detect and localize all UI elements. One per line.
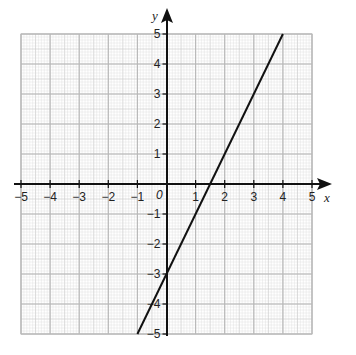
x-tick-label: 1 [192, 190, 199, 204]
x-tick-label: 2 [221, 190, 228, 204]
y-tick-label: 3 [154, 87, 161, 101]
y-axis-label: y [150, 8, 158, 23]
y-tick-label: 2 [154, 117, 161, 131]
x-axis-label: x [323, 190, 330, 205]
y-tick-label: −3 [147, 267, 161, 281]
x-tick-label: −3 [72, 190, 86, 204]
y-tick-label: 5 [154, 27, 161, 41]
y-tick-label: −5 [147, 327, 161, 341]
y-tick-label: 1 [154, 147, 161, 161]
y-tick-label: −1 [147, 207, 161, 221]
x-tick-label: −4 [43, 190, 57, 204]
x-tick-label: −1 [131, 190, 145, 204]
coordinate-graph: −5−4−3−2−11234554321−1−2−3−4−5 x y 0 [0, 0, 356, 355]
x-tick-label: 3 [250, 190, 257, 204]
x-tick-label: −2 [101, 190, 115, 204]
x-tick-label: −5 [14, 190, 28, 204]
x-tick-label: 4 [280, 190, 287, 204]
y-tick-label: −2 [147, 237, 161, 251]
x-tick-label: 5 [309, 190, 316, 204]
origin-label: 0 [156, 188, 163, 202]
y-tick-label: 4 [154, 57, 161, 71]
